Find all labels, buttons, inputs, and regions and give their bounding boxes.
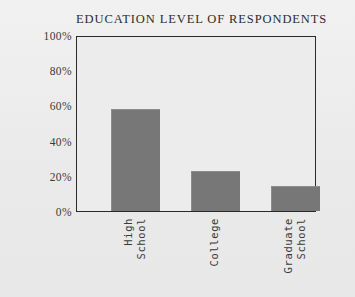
bar-college <box>191 171 240 211</box>
y-axis-tick-label: 80% <box>18 65 72 77</box>
bar-graduate-school <box>271 186 320 211</box>
y-axis-tick-label: 60% <box>18 100 72 112</box>
y-axis: 0%20%40%60%80%100% <box>18 30 72 220</box>
chart-title: EDUCATION LEVEL OF RESPONDENTS <box>76 12 316 26</box>
x-axis-category-label: School <box>293 218 309 297</box>
chart-canvas: EDUCATION LEVEL OF RESPONDENTS 0%20%40%6… <box>0 0 355 297</box>
plot-area <box>76 36 316 212</box>
y-axis-tick-label: 0% <box>18 206 72 218</box>
y-axis-tick-label: 40% <box>18 136 72 148</box>
y-axis-tick-label: 100% <box>18 30 72 42</box>
y-axis-tick-label: 20% <box>18 171 72 183</box>
x-axis-category-label: College <box>206 218 222 297</box>
bar-high-school <box>111 109 160 211</box>
x-axis-category-label: School <box>133 218 149 297</box>
